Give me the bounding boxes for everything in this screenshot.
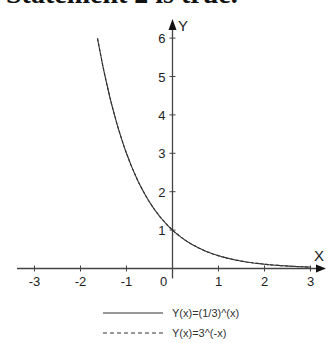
curve-1 xyxy=(98,38,311,267)
y-axis-arrow-icon xyxy=(169,19,177,30)
exponential-chart: XY-3-2-10123123456 Y(x)=(1/3)^(x)Y(x)=3^… xyxy=(0,0,332,343)
curve-2 xyxy=(98,38,311,267)
legend-label: Y(x)=3^(-x) xyxy=(172,327,226,339)
x-tick-label: 2 xyxy=(261,274,268,289)
x-tick-label: 0 xyxy=(160,274,167,289)
x-tick-label: -1 xyxy=(121,274,133,289)
y-tick-label: 2 xyxy=(158,185,165,200)
x-tick-label: 3 xyxy=(307,274,314,289)
curves xyxy=(98,38,311,267)
y-tick-label: 1 xyxy=(158,223,165,238)
y-tick-label: 5 xyxy=(158,70,165,85)
y-tick-label: 3 xyxy=(158,146,165,161)
y-axis-label: Y xyxy=(178,17,188,34)
x-axis-label: X xyxy=(314,247,324,264)
legend-label: Y(x)=(1/3)^(x) xyxy=(172,307,239,319)
y-tick-label: 6 xyxy=(158,31,165,46)
x-tick-label: -2 xyxy=(75,274,87,289)
axes: XY-3-2-10123123456 xyxy=(17,17,326,289)
legend: Y(x)=(1/3)^(x)Y(x)=3^(-x) xyxy=(103,307,239,339)
y-tick-label: 4 xyxy=(158,108,165,123)
x-tick-label: -3 xyxy=(29,274,41,289)
x-tick-label: 1 xyxy=(215,274,222,289)
x-axis-arrow-icon xyxy=(316,265,326,273)
